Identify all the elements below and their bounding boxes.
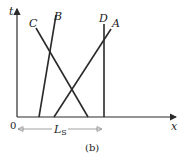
length-marker: LS (18, 123, 102, 137)
spacetime-diagram: t x 0 ABCD LS (b) (0, 0, 185, 162)
x-axis-label: x (171, 120, 178, 133)
length-label: L (53, 123, 61, 136)
worldlines: ABCD (29, 10, 120, 117)
svg-text:LS: LS (53, 123, 67, 137)
worldline-label-d: D (98, 12, 108, 25)
origin-label: 0 (10, 120, 16, 131)
worldline-label-b: B (53, 10, 62, 23)
worldline-label-c: C (29, 17, 38, 30)
length-subscript: S (61, 128, 66, 137)
figure-caption: (b) (85, 142, 99, 153)
worldline-label-a: A (111, 17, 120, 30)
t-axis-label: t (9, 5, 14, 18)
worldline-b (39, 15, 56, 117)
